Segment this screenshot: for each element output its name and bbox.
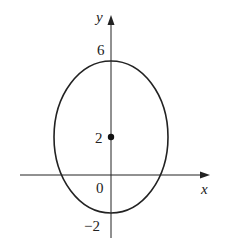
- tick-label-6: 6: [97, 42, 105, 58]
- tick-label-2: 2: [95, 130, 103, 146]
- chart-canvas: y x 6 2 0 −2: [0, 0, 227, 247]
- ellipse-chart: y x 6 2 0 −2: [0, 0, 227, 247]
- tick-label-neg2: −2: [84, 218, 100, 234]
- x-axis-label: x: [200, 181, 208, 197]
- origin-label: 0: [96, 180, 104, 196]
- center-point: [108, 134, 114, 140]
- x-axis-arrow-icon: [200, 172, 210, 179]
- y-axis-label: y: [94, 9, 103, 25]
- y-axis-arrow-icon: [108, 15, 115, 25]
